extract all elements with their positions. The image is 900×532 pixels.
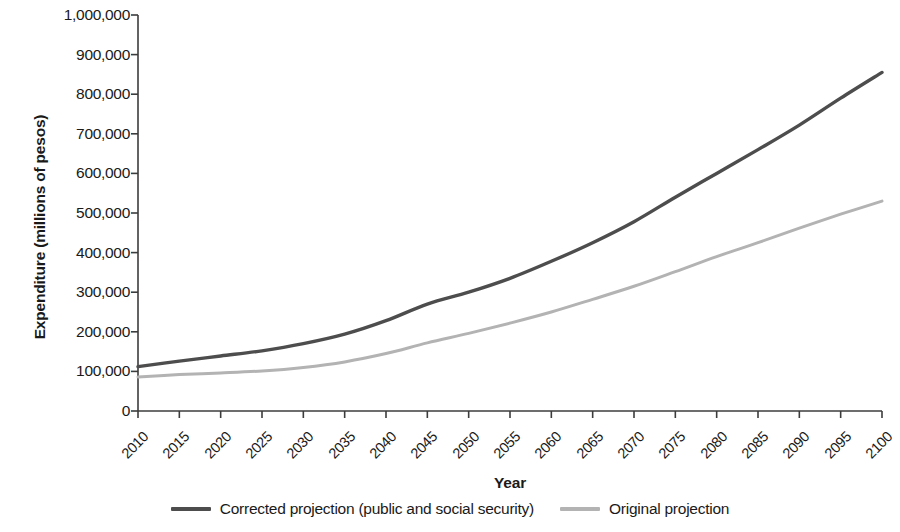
legend-swatch-line-icon <box>560 507 600 511</box>
legend-item[interactable]: Corrected projection (public and social … <box>171 500 534 518</box>
chart-legend: Corrected projection (public and social … <box>0 500 900 518</box>
legend-item[interactable]: Original projection <box>560 500 729 518</box>
legend-swatch-line-icon <box>171 507 211 511</box>
legend-label: Corrected projection (public and social … <box>220 500 534 518</box>
series-line-original <box>138 201 882 377</box>
legend-label: Original projection <box>609 500 729 518</box>
x-axis-title: Year <box>0 474 900 492</box>
chart-figure: Expenditure (millions of pesos) 0100,000… <box>0 0 900 532</box>
